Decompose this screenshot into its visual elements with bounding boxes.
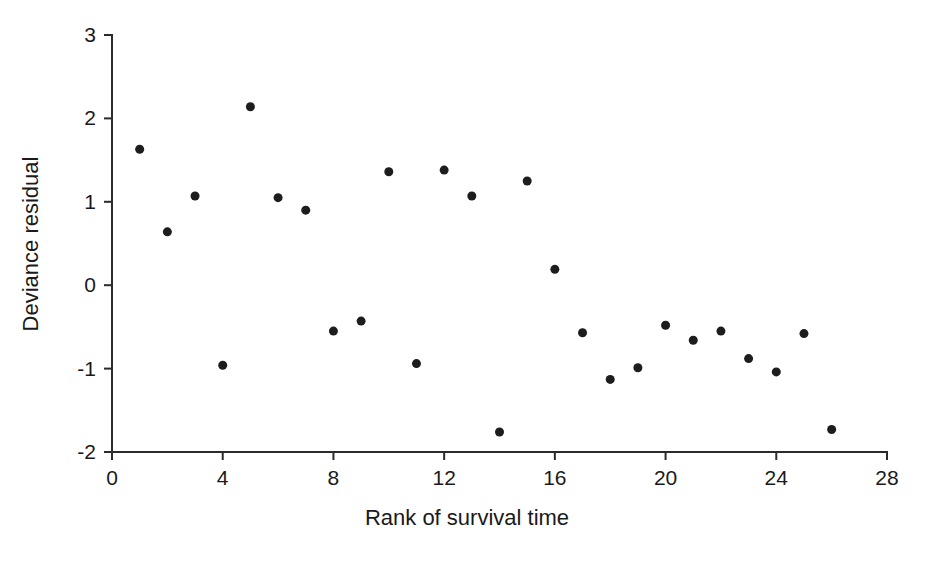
- data-point: [550, 265, 559, 274]
- data-point: [301, 206, 310, 215]
- data-point: [606, 375, 615, 384]
- x-axis-ticks: 0481216202428: [106, 452, 899, 489]
- data-point: [135, 145, 144, 154]
- data-point: [495, 427, 504, 436]
- data-point: [772, 367, 781, 376]
- x-axis-title: Rank of survival time: [365, 505, 569, 530]
- data-point: [191, 191, 200, 200]
- y-tick-label: 0: [84, 273, 96, 296]
- data-point: [440, 166, 449, 175]
- data-point: [799, 329, 808, 338]
- data-point: [467, 191, 476, 200]
- data-point: [246, 102, 255, 111]
- data-point: [523, 176, 532, 185]
- data-point: [329, 327, 338, 336]
- y-axis-title: Deviance residual: [18, 157, 43, 332]
- y-axis-ticks: -2-10123: [77, 23, 112, 463]
- plot-canvas: -2-10123 0481216202428 Rank of survival …: [0, 0, 935, 561]
- deviance-residual-scatter-figure: -2-10123 0481216202428 Rank of survival …: [0, 0, 935, 561]
- data-point: [163, 227, 172, 236]
- data-points-group: [135, 102, 836, 436]
- y-tick-label: -1: [77, 357, 96, 380]
- y-tick-label: 1: [84, 190, 96, 213]
- data-point: [716, 327, 725, 336]
- x-tick-label: 12: [432, 466, 455, 489]
- axes-group: [112, 35, 887, 452]
- data-point: [384, 167, 393, 176]
- data-point: [827, 425, 836, 434]
- data-point: [744, 354, 753, 363]
- x-tick-label: 4: [217, 466, 229, 489]
- data-point: [218, 361, 227, 370]
- data-point: [633, 363, 642, 372]
- data-point: [578, 328, 587, 337]
- data-point: [274, 193, 283, 202]
- x-tick-label: 8: [328, 466, 340, 489]
- y-tick-label: -2: [77, 440, 96, 463]
- data-point: [357, 317, 366, 326]
- x-tick-label: 28: [875, 466, 898, 489]
- x-tick-label: 16: [543, 466, 566, 489]
- y-tick-label: 2: [84, 106, 96, 129]
- x-tick-label: 20: [654, 466, 677, 489]
- data-point: [661, 321, 670, 330]
- x-tick-label: 24: [765, 466, 789, 489]
- data-point: [412, 359, 421, 368]
- data-point: [689, 336, 698, 345]
- x-tick-label: 0: [106, 466, 118, 489]
- y-tick-label: 3: [84, 23, 96, 46]
